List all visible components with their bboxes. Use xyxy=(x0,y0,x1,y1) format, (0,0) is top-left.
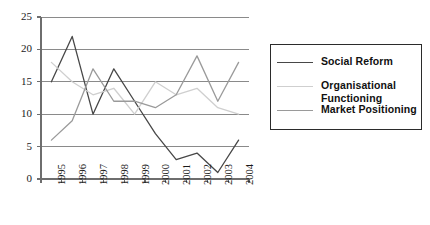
series-lines xyxy=(51,36,238,172)
legend-item[interactable]: Organisational Functioning xyxy=(277,79,419,104)
x-axis-tick-label: 2001 xyxy=(181,164,192,185)
legend-line-swatch xyxy=(277,86,313,87)
legend-line-swatch xyxy=(277,110,313,111)
legend-item-label: Market Positioning xyxy=(321,103,417,116)
y-axis-tick-label: 25 xyxy=(8,11,32,22)
legend-line-swatch xyxy=(277,62,313,63)
x-axis-tick-label: 1999 xyxy=(140,164,151,185)
y-axis-tick-label: 5 xyxy=(8,141,32,152)
x-axis-tick-label: 1995 xyxy=(56,164,67,185)
x-axis-tick-label: 1998 xyxy=(119,164,130,185)
y-axis-tick-label: 15 xyxy=(8,76,32,87)
x-axis-tick-label: 2003 xyxy=(223,164,234,185)
plot-svg xyxy=(0,0,262,225)
line-chart: 0510152025 19951996199719981999200020012… xyxy=(0,0,430,225)
x-axis-tick-label: 2004 xyxy=(244,164,255,185)
y-axis-tick-label: 0 xyxy=(8,173,32,184)
legend-item-label: Social Reform xyxy=(321,55,393,68)
x-axis-tick-label: 1997 xyxy=(98,164,109,185)
y-axis-tick-label: 10 xyxy=(8,108,32,119)
x-axis-tick-label: 1996 xyxy=(77,164,88,185)
legend-item[interactable]: Market Positioning xyxy=(277,103,419,116)
y-axis-tick-label: 20 xyxy=(8,43,32,54)
legend-item-label: Organisational Functioning xyxy=(321,79,419,104)
series-line-1 xyxy=(51,62,238,114)
legend-item[interactable]: Social Reform xyxy=(277,55,419,68)
x-axis-tick-label: 2000 xyxy=(160,164,171,185)
legend: Social ReformOrganisational FunctioningM… xyxy=(270,44,422,130)
plot-area: 0510152025 19951996199719981999200020012… xyxy=(0,0,262,225)
x-axis-tick-label: 2002 xyxy=(202,164,213,185)
